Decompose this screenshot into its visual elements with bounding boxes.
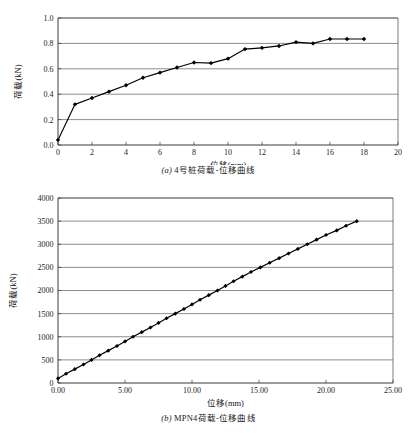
data-point-marker <box>73 367 77 371</box>
data-point-marker <box>56 138 60 142</box>
x-axis-tick-label: 14 <box>292 148 300 157</box>
x-axis-tick-label: 6 <box>158 148 162 157</box>
y-axis-tick-label: 0.2 <box>44 116 54 125</box>
x-axis-tick-label: 20.00 <box>317 386 335 395</box>
data-point-marker <box>335 228 339 232</box>
chart-b-plot-area: 0.005.0010.0015.0020.0025.00050010001500… <box>0 185 417 413</box>
x-axis-tick-label: 12 <box>258 148 266 157</box>
figure-a-caption: (a) 4号桩荷载-位移曲线 <box>0 165 417 176</box>
y-axis-tick-label: 0.8 <box>44 39 54 48</box>
figure-b-caption-label: (b) <box>161 413 172 423</box>
data-point-marker <box>260 46 264 50</box>
y-axis-tick-label: 1500 <box>38 310 54 319</box>
data-point-marker <box>243 47 247 51</box>
y-axis-tick-label: 2000 <box>38 286 54 295</box>
data-point-marker <box>362 37 366 41</box>
y-axis-tick-label: 3500 <box>38 217 54 226</box>
x-axis-tick-label: 2 <box>90 148 94 157</box>
y-axis-title: 荷载(kN) <box>13 64 23 98</box>
x-axis-tick-label: 8 <box>192 148 196 157</box>
figure-b: 0.005.0010.0015.0020.0025.00050010001500… <box>0 185 417 441</box>
data-point-marker <box>140 330 144 334</box>
data-point-marker <box>90 96 94 100</box>
data-point-marker <box>124 83 128 87</box>
y-axis-tick-label: 0.0 <box>44 141 54 150</box>
data-point-marker <box>249 270 253 274</box>
chart-a-svg: 024681012141618200.00.20.40.60.81.0位移(mm… <box>0 0 417 165</box>
x-axis-tick-label: 4 <box>124 148 128 157</box>
y-axis-tick-label: 3000 <box>38 240 54 249</box>
y-axis-tick-label: 0.6 <box>44 65 54 74</box>
x-axis-tick-label: 10 <box>224 148 232 157</box>
chart-b-svg: 0.005.0010.0015.0020.0025.00050010001500… <box>0 185 417 413</box>
x-axis-title: 位移(mm) <box>207 398 244 408</box>
data-point-marker <box>226 56 230 60</box>
data-point-marker <box>277 44 281 48</box>
data-point-marker <box>73 102 77 106</box>
figure-a-caption-label: (a) <box>162 165 173 175</box>
data-point-marker <box>305 242 309 246</box>
data-point-marker <box>192 60 196 64</box>
x-axis-tick-label: 18 <box>360 148 368 157</box>
data-point-marker <box>324 233 328 237</box>
data-series-line <box>58 39 364 140</box>
data-point-marker <box>277 256 281 260</box>
y-axis-tick-label: 500 <box>42 356 54 365</box>
figure-b-caption-text: MPN4荷载-位移曲线 <box>172 413 256 423</box>
data-point-marker <box>141 75 145 79</box>
data-point-marker <box>240 275 244 279</box>
data-point-marker <box>209 61 213 65</box>
data-point-marker <box>207 293 211 297</box>
y-axis-tick-label: 0.4 <box>44 90 54 99</box>
data-series-line <box>58 221 357 378</box>
figure-b-caption: (b) MPN4荷载-位移曲线 <box>0 413 417 424</box>
data-point-marker <box>106 349 110 353</box>
x-axis-tick-label: 5.00 <box>118 386 132 395</box>
y-axis-tick-label: 0 <box>50 379 54 388</box>
x-axis-tick-label: 10.00 <box>183 386 201 395</box>
data-point-marker <box>268 261 272 265</box>
data-point-marker <box>258 265 262 269</box>
data-point-marker <box>311 41 315 45</box>
data-point-marker <box>344 224 348 228</box>
x-axis-title: 位移(mm) <box>210 160 247 165</box>
x-axis-tick-label: 16 <box>326 148 334 157</box>
data-point-marker <box>315 238 319 242</box>
data-point-marker <box>345 37 349 41</box>
data-point-marker <box>328 37 332 41</box>
figure-a: 024681012141618200.00.20.40.60.81.0位移(mm… <box>0 0 417 185</box>
y-axis-title: 荷载(kN) <box>8 273 18 307</box>
data-point-marker <box>355 219 359 223</box>
y-axis-tick-label: 1.0 <box>44 14 54 23</box>
x-axis-tick-label: 25.00 <box>384 386 402 395</box>
x-axis-tick-label: 15.00 <box>250 386 268 395</box>
data-point-marker <box>296 247 300 251</box>
y-axis-tick-label: 1000 <box>38 333 54 342</box>
y-axis-tick-label: 2500 <box>38 263 54 272</box>
data-point-marker <box>173 312 177 316</box>
data-point-marker <box>286 251 290 255</box>
y-axis-tick-label: 4000 <box>38 194 54 203</box>
data-point-marker <box>158 70 162 74</box>
x-axis-tick-label: 0 <box>56 148 60 157</box>
chart-a-plot-area: 024681012141618200.00.20.40.60.81.0位移(mm… <box>0 0 417 165</box>
data-point-marker <box>107 89 111 93</box>
figure-a-caption-text: 4号桩荷载-位移曲线 <box>172 165 255 175</box>
x-axis-tick-label: 20 <box>394 148 402 157</box>
